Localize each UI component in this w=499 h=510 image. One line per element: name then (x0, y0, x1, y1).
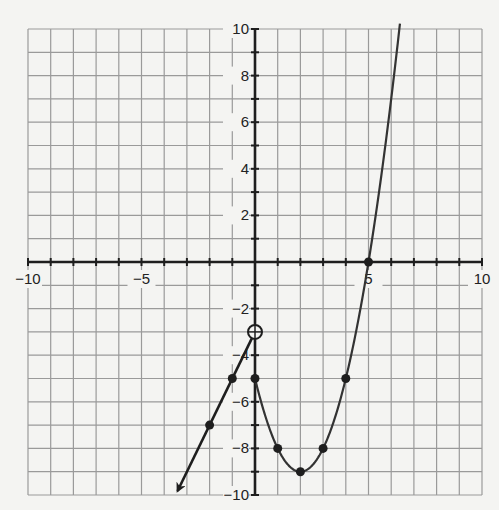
data-point (341, 374, 350, 383)
y-tick-label: 8 (241, 67, 249, 84)
y-tick-label: −10 (224, 486, 249, 503)
data-point (205, 421, 214, 430)
data-point (251, 374, 260, 383)
y-tick-label: 4 (241, 160, 249, 177)
data-point (296, 467, 305, 476)
y-tick-label: 10 (232, 20, 249, 37)
y-tick-label: 2 (241, 206, 249, 223)
y-tick-label: −2 (232, 300, 249, 317)
x-tick-label: 10 (474, 270, 491, 287)
y-tick-label: −8 (232, 439, 249, 456)
data-point (273, 444, 282, 453)
function-series (178, 24, 400, 491)
data-point (364, 258, 373, 267)
x-tick-label: −5 (133, 270, 150, 287)
open-circle-endpoint (248, 325, 262, 339)
y-tick-label: 6 (241, 113, 249, 130)
y-tick-label: −6 (232, 393, 249, 410)
data-point (228, 374, 237, 383)
data-point (319, 444, 328, 453)
x-tick-label: −10 (15, 270, 40, 287)
piecewise-function-graph: −10−5510108642−2−4−6−8−10 (0, 0, 499, 510)
parabola-curve (255, 24, 400, 472)
